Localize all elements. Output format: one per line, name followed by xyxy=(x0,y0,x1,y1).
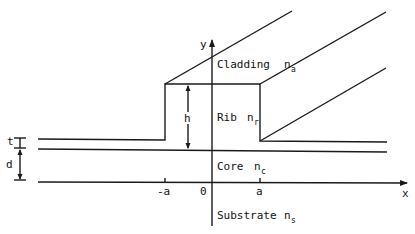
y-axis-label: y xyxy=(200,38,207,51)
svg-text:Core: Core xyxy=(217,160,244,173)
d-label: d xyxy=(6,158,13,171)
svg-text:Cladding: Cladding xyxy=(217,58,270,71)
t-label: t xyxy=(7,135,14,148)
tick-label-a: a xyxy=(256,185,263,198)
rib-top-right-perspective xyxy=(260,12,386,84)
x-axis-label: x xyxy=(402,187,409,200)
rib-bottom-right-perspective xyxy=(260,68,386,141)
core-label: Core n c xyxy=(217,160,266,176)
tick-label-minus-a: -a xyxy=(157,185,170,198)
origin-label: 0 xyxy=(200,185,207,198)
rib-left-edge-perspective xyxy=(165,11,292,84)
svg-text:s: s xyxy=(291,216,296,225)
svg-text:a: a xyxy=(291,65,296,74)
rib-waveguide-diagram: h t d y x 0 -a a Cladding n a Rib n r Co… xyxy=(0,0,415,234)
svg-text:n: n xyxy=(254,160,261,173)
h-label: h xyxy=(184,112,191,125)
cladding-label: Cladding n a xyxy=(217,58,296,74)
x-axis xyxy=(38,182,407,183)
rib-label: Rib n r xyxy=(217,111,259,127)
svg-text:r: r xyxy=(254,118,259,127)
svg-text:Rib: Rib xyxy=(217,111,237,124)
svg-text:n: n xyxy=(247,111,254,124)
substrate-label: Substrate n s xyxy=(217,209,296,225)
svg-text:n: n xyxy=(284,209,291,222)
svg-text:n: n xyxy=(284,58,291,71)
svg-text:c: c xyxy=(261,167,266,176)
svg-text:Substrate: Substrate xyxy=(217,209,277,222)
